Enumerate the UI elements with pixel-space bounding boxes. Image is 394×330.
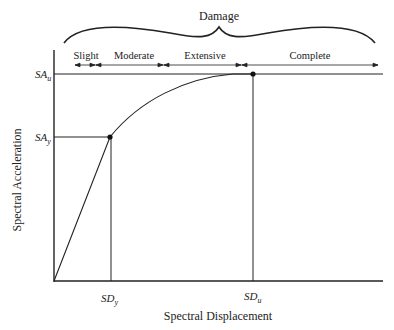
x-axis-title: Spectral Displacement [164, 309, 273, 323]
sa-u-label: SAu [35, 68, 51, 83]
capacity-curve [54, 74, 253, 281]
yield-point [107, 134, 112, 139]
ultimate-point [250, 71, 255, 76]
sd-y-label: SDy [101, 292, 118, 307]
damage-brace [64, 27, 375, 43]
sd-u-label: SDu [244, 290, 261, 305]
damage-state-complete: Complete [290, 50, 331, 61]
damage-state-extensive: Extensive [184, 50, 226, 61]
damage-range-arrows [75, 63, 378, 67]
sa-y-label: SAy [35, 131, 51, 146]
capacity-curve-diagram: Damage Slight Moderate Extensive Complet… [0, 0, 394, 330]
damage-label: Damage [199, 9, 239, 23]
y-axis-title: Spectral Acceleration [10, 129, 24, 232]
damage-state-moderate: Moderate [114, 50, 155, 61]
damage-state-slight: Slight [73, 50, 98, 61]
